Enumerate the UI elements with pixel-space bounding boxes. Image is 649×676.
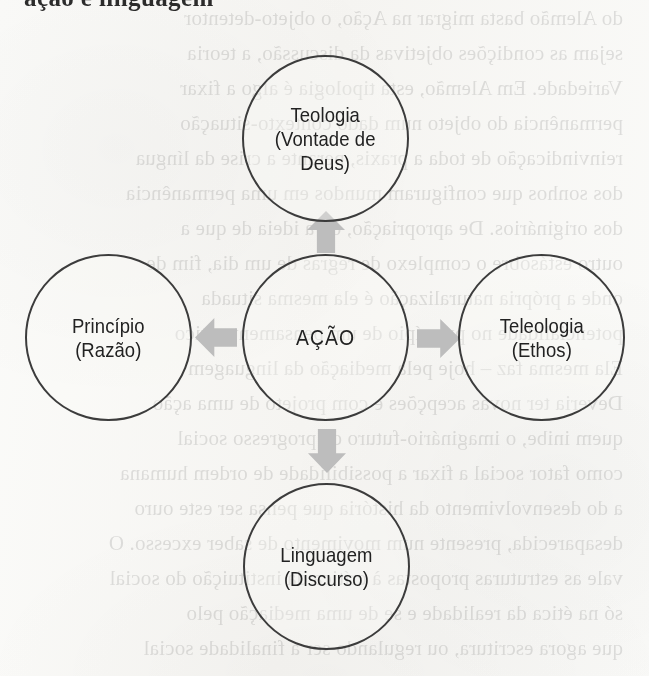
- node-principio-label: Princípio (Razão): [67, 314, 150, 362]
- node-acao-label: AÇÃO: [291, 326, 361, 350]
- node-linguagem-label: Linguagem (Discurso): [275, 543, 378, 591]
- node-principio: Princípio (Razão): [25, 254, 192, 421]
- node-teologia-label: Teologia (Vontade de Deus): [270, 103, 381, 175]
- node-teleologia-label: Teleologia (Ethos): [494, 314, 589, 362]
- node-acao: AÇÃO: [242, 254, 409, 421]
- scanned-page: do Alemão basta migrar na Ação, o objeto…: [0, 0, 649, 676]
- arrow-down-to-linguagem: [308, 429, 346, 473]
- node-linguagem: Linguagem (Discurso): [243, 483, 410, 650]
- arrow-right-to-teleologia: [417, 319, 460, 358]
- action-relationship-diagram: Teologia (Vontade de Deus) Princípio (Ra…: [0, 0, 649, 676]
- arrow-left-to-principio: [195, 318, 237, 357]
- node-teologia: Teologia (Vontade de Deus): [242, 55, 409, 222]
- node-teleologia: Teleologia (Ethos): [458, 254, 625, 421]
